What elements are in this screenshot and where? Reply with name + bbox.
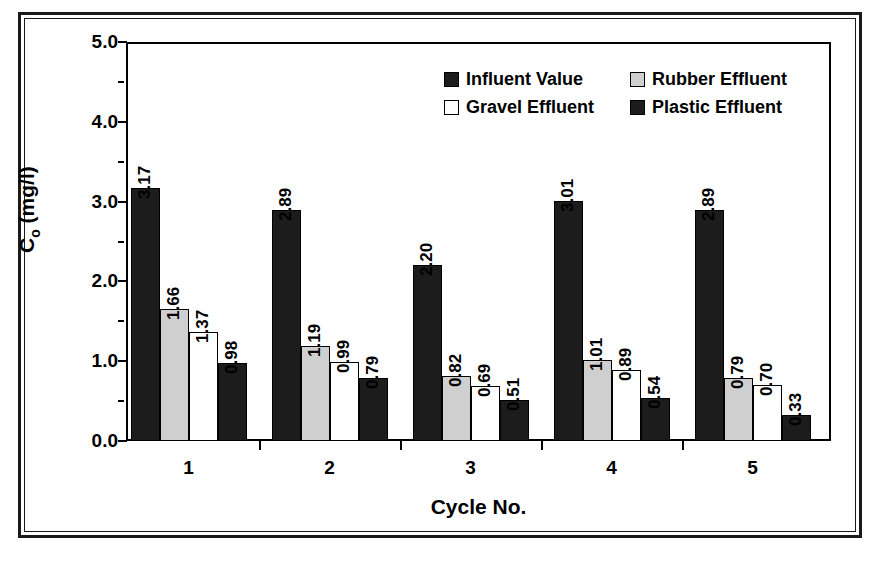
y-tick-label: 3.0 xyxy=(72,192,118,211)
bar-value-label: 0.79 xyxy=(729,356,746,389)
bar-rubber-cycle-4 xyxy=(583,360,612,441)
legend-swatch-icon-gravel xyxy=(444,100,459,115)
legend-label: Influent Value xyxy=(466,70,583,88)
bar-influent-cycle-2 xyxy=(272,210,301,441)
bar-value-label: 0.70 xyxy=(758,363,775,396)
y-axis-title: Co (mg/l) xyxy=(15,125,42,295)
legend-swatch-icon-influent xyxy=(444,72,459,87)
legend-swatch-icon-plastic xyxy=(630,100,645,115)
bar-value-label: 0.99 xyxy=(335,340,352,373)
y-tick-label: 5.0 xyxy=(72,32,118,51)
y-tick-minor xyxy=(118,241,124,243)
y-axis: 0.01.02.03.04.05.0 xyxy=(66,42,118,441)
x-tick xyxy=(400,441,402,450)
bar-gravel-cycle-1 xyxy=(189,332,218,441)
x-tick-label-cycle-3: 3 xyxy=(441,458,501,477)
bar-influent-cycle-3 xyxy=(413,265,442,441)
legend-label: Gravel Effluent xyxy=(466,98,594,116)
bar-value-label: 2.20 xyxy=(418,243,435,276)
bar-rubber-cycle-2 xyxy=(301,346,330,441)
bar-value-label: 2.89 xyxy=(700,188,717,221)
bar-value-label: 0.82 xyxy=(447,353,464,386)
y-tick-label: 0.0 xyxy=(72,431,118,450)
bar-value-label: 0.33 xyxy=(787,393,804,426)
chart-legend: Influent ValueRubber EffluentGravel Effl… xyxy=(444,70,774,126)
x-axis-title: Cycle No. xyxy=(126,495,831,519)
bar-value-label: 1.37 xyxy=(194,310,211,343)
x-tick-label-cycle-1: 1 xyxy=(159,458,219,477)
x-tick xyxy=(682,441,684,450)
bar-chart: 0.01.02.03.04.05.0 Co (mg/l) 12345 Cycle… xyxy=(0,0,882,561)
bar-value-label: 3.01 xyxy=(559,179,576,212)
x-tick xyxy=(541,441,543,450)
y-tick-minor xyxy=(118,400,124,402)
bar-influent-cycle-5 xyxy=(695,210,724,441)
x-tick xyxy=(259,441,261,450)
legend-swatch-icon-rubber xyxy=(630,72,645,87)
y-axis-title-unit: (mg/l) xyxy=(15,166,38,229)
bar-influent-cycle-4 xyxy=(554,201,583,441)
bar-value-label: 1.66 xyxy=(165,286,182,319)
legend-item-plastic: Plastic Effluent xyxy=(630,98,782,116)
bar-influent-cycle-1 xyxy=(131,188,160,441)
bar-value-label: 1.01 xyxy=(588,338,605,371)
bar-value-label: 0.69 xyxy=(476,364,493,397)
bar-value-label: 2.89 xyxy=(277,188,294,221)
y-tick-minor xyxy=(118,320,124,322)
bar-value-label: 0.89 xyxy=(617,348,634,381)
y-tick-label: 4.0 xyxy=(72,112,118,131)
y-tick-label: 1.0 xyxy=(72,351,118,370)
bar-gravel-cycle-2 xyxy=(330,362,359,441)
legend-item-influent: Influent Value xyxy=(444,70,583,88)
x-tick-label-cycle-4: 4 xyxy=(582,458,642,477)
y-tick-minor xyxy=(118,161,124,163)
bar-value-label: 3.17 xyxy=(136,166,153,199)
legend-label: Plastic Effluent xyxy=(652,98,782,116)
bar-value-label: 0.54 xyxy=(646,376,663,409)
legend-item-gravel: Gravel Effluent xyxy=(444,98,594,116)
y-axis-title-base: C xyxy=(15,238,38,253)
bar-value-label: 0.51 xyxy=(505,378,522,411)
x-tick-label-cycle-2: 2 xyxy=(300,458,360,477)
bar-plastic-cycle-1 xyxy=(218,363,247,441)
y-tick-label: 2.0 xyxy=(72,271,118,290)
bar-value-label: 0.98 xyxy=(223,341,240,374)
x-axis-ticks xyxy=(126,441,831,451)
x-tick-label-cycle-5: 5 xyxy=(723,458,783,477)
legend-item-rubber: Rubber Effluent xyxy=(630,70,787,88)
legend-label: Rubber Effluent xyxy=(652,70,787,88)
bar-value-label: 0.79 xyxy=(364,356,381,389)
x-axis-tick-labels: 12345 xyxy=(126,458,831,484)
bar-value-label: 1.19 xyxy=(306,324,323,357)
y-tick-minor xyxy=(118,81,124,83)
bar-rubber-cycle-1 xyxy=(160,309,189,441)
y-axis-title-subscript: o xyxy=(27,229,43,238)
